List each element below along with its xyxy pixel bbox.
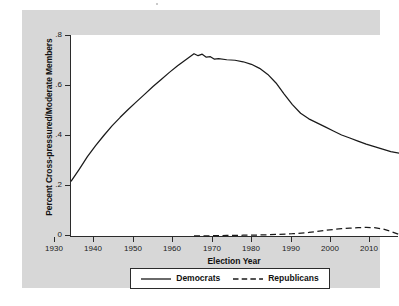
y-tick-label: 0	[22, 231, 62, 239]
y-axis-title: Percent Cross-pressured/Moderate Members	[44, 22, 54, 232]
chart-canvas: Percent Cross-pressured/Moderate Members…	[22, 10, 380, 288]
x-tick-label: 1930	[34, 244, 74, 253]
x-tick-label: 1950	[113, 244, 153, 253]
series-line-republicans	[194, 227, 399, 236]
plot-region	[70, 35, 398, 237]
x-tick-mark	[172, 237, 173, 242]
x-tick-mark	[369, 237, 370, 242]
x-tick-label: 1940	[73, 244, 113, 253]
scan-artifact-speck	[156, 3, 158, 5]
y-tick-label: .6	[22, 81, 62, 89]
legend-item-democrats: Democrats	[141, 274, 220, 283]
series-line-democrats	[71, 54, 399, 182]
x-tick-mark	[212, 237, 213, 242]
legend-key-dashed-icon	[233, 275, 263, 283]
legend-item-republicans: Republicans	[233, 274, 319, 283]
x-axis-title: Election Year	[70, 256, 398, 266]
x-tick-label: 1960	[152, 244, 192, 253]
legend-label-republicans: Republicans	[268, 274, 319, 283]
chart-legend: Democrats Republicans	[130, 268, 330, 289]
y-tick-label: .4	[22, 131, 62, 139]
x-tick-mark	[330, 237, 331, 242]
y-tick-label: .2	[22, 181, 62, 189]
legend-key-solid-icon	[141, 275, 171, 283]
x-tick-mark	[133, 237, 134, 242]
legend-label-democrats: Democrats	[176, 274, 220, 283]
x-tick-mark	[251, 237, 252, 242]
x-tick-mark	[54, 237, 55, 242]
x-tick-mark	[291, 237, 292, 242]
y-tick-label: .8	[22, 31, 62, 39]
x-tick-label: 1980	[231, 244, 271, 253]
x-tick-label: 2010	[349, 244, 389, 253]
x-tick-label: 1970	[192, 244, 232, 253]
x-tick-label: 1990	[271, 244, 311, 253]
x-tick-label: 2000	[310, 244, 350, 253]
x-tick-mark	[93, 237, 94, 242]
plot-lines	[71, 35, 399, 237]
